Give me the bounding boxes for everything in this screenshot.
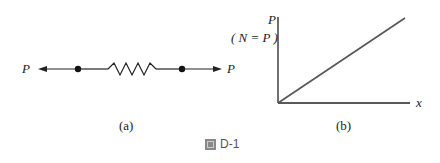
- y-axis-label: P: [268, 12, 276, 28]
- panel-a-label: (a): [119, 118, 133, 134]
- left-arrow-head: [38, 66, 47, 72]
- spring: [108, 63, 156, 75]
- force-displacement-plot: [278, 17, 410, 103]
- figure-icon: [205, 139, 216, 150]
- right-force-label: P: [227, 61, 235, 77]
- spring-system: [38, 63, 222, 75]
- right-arrow-head: [213, 66, 222, 72]
- x-axis-label: x: [416, 95, 422, 111]
- linear-plot-line: [278, 18, 405, 103]
- panel-b-label: (b): [336, 118, 351, 134]
- figure-caption-text: D-1: [220, 137, 239, 151]
- left-force-label: P: [22, 61, 30, 77]
- figure-caption: D-1: [205, 137, 239, 151]
- y-axis-note: ( N = P ): [231, 30, 278, 46]
